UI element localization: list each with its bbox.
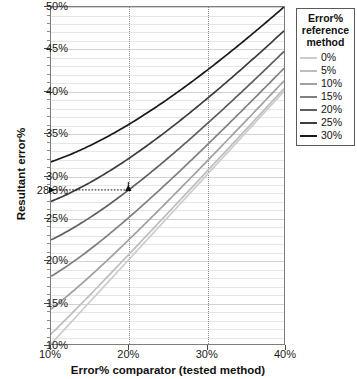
y-tick [47,125,50,126]
y-tick [47,286,50,287]
legend-label: 25% [321,117,342,128]
y-tick [47,294,50,295]
legend-label: 15% [321,91,342,102]
legend-title: Error% reference method [299,12,352,48]
legend-label: 0% [321,52,336,63]
y-tick [47,243,50,244]
y-tick [47,82,50,83]
y-tick [47,57,50,58]
legend-swatch [300,96,317,98]
series-curves [51,7,284,344]
y-tick-label: 35% [46,128,68,139]
legend-items: 0%5%10%15%20%25%30% [299,51,352,142]
y-tick [47,150,50,151]
series-line-20pct [51,51,284,239]
y-tick [47,235,50,236]
series-line-5pct [51,89,284,334]
y-tick [47,201,50,202]
y-tick-label: 30% [46,171,68,182]
y-tick-label: 25% [46,213,68,224]
legend-item: 30% [299,129,352,142]
legend-label: 10% [321,78,342,89]
y-tick [47,328,50,329]
y-tick [47,142,50,143]
y-axis-title: Resultant error% [15,104,27,244]
y-tick-label: 40% [46,86,68,97]
y-annotation-label: 28.3% [37,185,68,196]
y-tick [47,167,50,168]
y-tick-label: 50% [46,1,68,12]
y-tick [47,320,50,321]
y-tick [47,252,50,253]
legend-title-line-2: reference [299,24,352,36]
y-tick-label: 15% [46,298,68,309]
legend-item: 5% [299,64,352,77]
x-tick-label: 10% [30,349,70,360]
x-axis-title: Error% comparator (tested method) [40,364,296,376]
legend-swatch [300,83,317,85]
legend-title-line-1: Error% [299,12,352,24]
y-tick [47,31,50,32]
legend-swatch [300,109,317,111]
series-line-0pct [51,91,284,344]
legend: Error% reference method 0%5%10%15%20%25%… [296,8,355,146]
series-line-10pct [51,81,284,309]
legend-title-line-3: method [299,36,352,48]
legend-label: 5% [321,65,336,76]
legend-swatch [300,122,317,124]
legend-item: 10% [299,77,352,90]
legend-item: 20% [299,103,352,116]
legend-label: 30% [321,130,342,141]
y-tick [47,65,50,66]
legend-swatch [300,135,317,137]
y-tick [47,159,50,160]
y-tick [47,209,50,210]
y-tick [47,337,50,338]
y-tick [47,74,50,75]
y-tick [47,23,50,24]
y-tick [47,226,50,227]
legend-label: 20% [321,104,342,115]
y-tick [47,40,50,41]
y-tick [47,116,50,117]
legend-item: 15% [299,90,352,103]
series-line-25pct [51,31,284,202]
y-tick [47,108,50,109]
x-tick-label: 20% [108,349,148,360]
legend-item: 0% [299,51,352,64]
y-tick [47,311,50,312]
legend-swatch [300,70,317,72]
y-tick-label: 20% [46,255,68,266]
plot-area [50,6,285,345]
y-tick [47,15,50,16]
x-tick-label: 40% [265,349,305,360]
legend-item: 25% [299,116,352,129]
y-tick [47,269,50,270]
y-tick-label: 45% [46,43,68,54]
legend-swatch [300,57,317,59]
x-tick-label: 30% [187,349,227,360]
y-tick [47,277,50,278]
chart-figure: 10%15%20%25%30%35%40%45%50%28.3% 10%20%3… [0,0,357,379]
y-tick [47,99,50,100]
